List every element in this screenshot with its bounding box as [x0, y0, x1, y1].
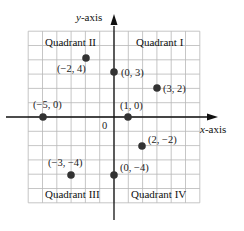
origin-label: 0 — [102, 120, 107, 131]
y-axis-arrow-icon — [111, 14, 118, 25]
point-label: (1, 0) — [120, 100, 143, 112]
point-label: (−5, 0) — [33, 99, 62, 111]
point-dot — [39, 113, 47, 121]
point-dot — [153, 84, 161, 92]
point-label: (−2, 4) — [57, 63, 86, 75]
coordinate-plane: y-axis x-axis 0 Quadrant II Quadrant I Q… — [0, 0, 244, 231]
point-dot — [82, 54, 90, 62]
point-dot — [138, 142, 146, 150]
point-label: (0, −4) — [120, 162, 149, 174]
y-axis-label: y-axis — [75, 11, 102, 23]
point-dot — [110, 171, 118, 179]
x-axis — [6, 114, 218, 121]
point-label: (3, 2) — [163, 83, 186, 95]
point-dot — [124, 113, 132, 121]
quadrant-iv-label: Quadrant IV — [131, 188, 186, 200]
x-axis-label: x-axis — [199, 123, 226, 135]
point-label: (2, −2) — [148, 134, 177, 146]
point-dot — [67, 171, 75, 179]
quadrant-i-label: Quadrant I — [136, 36, 184, 48]
point-label: (−3, −4) — [48, 157, 83, 169]
x-axis-arrow-icon — [207, 114, 218, 121]
point-dot — [110, 68, 118, 76]
quadrant-ii-label: Quadrant II — [45, 36, 96, 48]
point-label: (0, 3) — [121, 67, 144, 79]
quadrant-iii-label: Quadrant III — [45, 188, 100, 200]
